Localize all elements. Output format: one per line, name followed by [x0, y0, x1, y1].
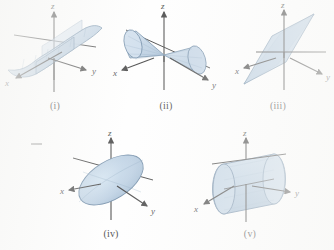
- panel-iii-diagram: z x y: [222, 0, 334, 100]
- x-axis-label-ii: x: [112, 68, 117, 78]
- scan-artifact-dash: [31, 143, 42, 145]
- y-axis-label-ii: y: [211, 80, 216, 90]
- panel-caption-v: (v): [190, 228, 310, 239]
- panel-i: z x y: [0, 0, 110, 120]
- z-axis-label-iv: z: [107, 128, 112, 138]
- panel-i-diagram: z x y: [0, 0, 110, 100]
- figure-container: z x y: [0, 0, 334, 250]
- plane-surface-fill-iii: [244, 14, 314, 84]
- z-axis-label-v: z: [242, 128, 247, 138]
- z-axis-label-ii: z: [160, 1, 165, 11]
- x-axis-ii: [122, 58, 154, 70]
- y-axis-label-i: y: [91, 66, 96, 76]
- x-axis-label-iii: x: [234, 66, 239, 76]
- panel-iv: z x y (iv): [55, 128, 167, 250]
- panel-iii: z x y (iii): [222, 0, 334, 120]
- x-axis-label-v: x: [193, 204, 198, 214]
- y-axis-label-iii: y: [325, 72, 330, 82]
- panel-caption-ii: (ii): [110, 100, 222, 111]
- panel-caption-i: (i): [0, 100, 110, 111]
- panel-caption-iv: (iv): [55, 228, 167, 239]
- panel-caption-iii: (iii): [222, 100, 334, 111]
- z-axis-label-i: z: [50, 1, 55, 11]
- y-axis-iii: [290, 58, 322, 74]
- x-axis-label-iv: x: [59, 186, 64, 196]
- panel-ii-diagram: z x: [110, 0, 222, 100]
- panel-iv-diagram: z x y: [55, 128, 167, 228]
- x-axis-label-i: x: [4, 78, 9, 88]
- panel-v-diagram: z x y: [190, 128, 310, 228]
- z-axis-label-iii: z: [280, 0, 285, 10]
- y-axis-label-v: y: [294, 188, 299, 198]
- y-axis-label-iv: y: [150, 206, 155, 216]
- panel-ii: z x: [110, 0, 222, 120]
- panel-v: z x y (v): [190, 128, 310, 250]
